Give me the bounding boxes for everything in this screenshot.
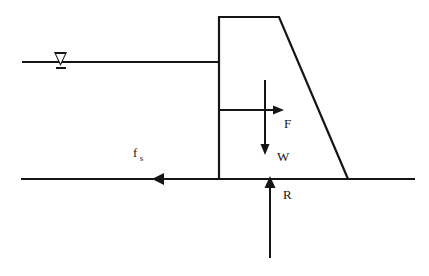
label-friction-subscript: s (140, 153, 144, 163)
force-arrow-W-head (261, 144, 270, 155)
force-arrow-R (265, 176, 276, 258)
force-arrow-W (261, 80, 270, 155)
force-arrow-R-head (265, 176, 276, 188)
diagram-canvas (0, 0, 429, 276)
force-arrow-F (219, 106, 284, 115)
label-hydrostatic-force: F (284, 117, 292, 130)
force-arrow-fs (152, 173, 164, 185)
force-arrow-fs-head (152, 173, 164, 185)
label-reaction-force: R (283, 188, 292, 201)
label-friction-symbol: f (133, 145, 138, 160)
water-table-icon (54, 52, 67, 68)
label-weight-force: W (277, 150, 290, 163)
free-body-diagram: fs F W R (0, 0, 429, 276)
label-friction-force: fs (133, 144, 141, 160)
force-arrow-F-head (273, 106, 284, 115)
